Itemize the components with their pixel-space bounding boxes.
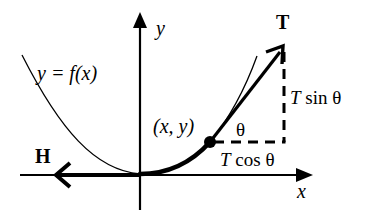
curve-right-branch <box>210 56 257 142</box>
x-axis-label: x <box>296 180 306 202</box>
cable-tension-diagram: y x y = f(x) (x, y) T H θ T sin θ T cos … <box>0 0 369 218</box>
curve-thick-segment <box>140 142 210 174</box>
point-label: (x, y) <box>153 115 194 138</box>
horizontal-force-label: H <box>35 145 51 167</box>
curve-equation-label: y = f(x) <box>35 62 97 85</box>
point-marker <box>204 136 216 148</box>
y-axis <box>133 12 147 210</box>
vertical-component-label: T sin θ <box>290 87 341 108</box>
horizontal-force-arrow <box>56 163 140 187</box>
tension-vector <box>210 46 283 142</box>
y-axis-arrowhead-icon <box>133 12 147 28</box>
y-axis-label: y <box>154 17 165 40</box>
angle-label: θ <box>236 119 245 140</box>
tension-label: T <box>276 11 290 33</box>
horizontal-component-label: T cos θ <box>220 149 275 170</box>
